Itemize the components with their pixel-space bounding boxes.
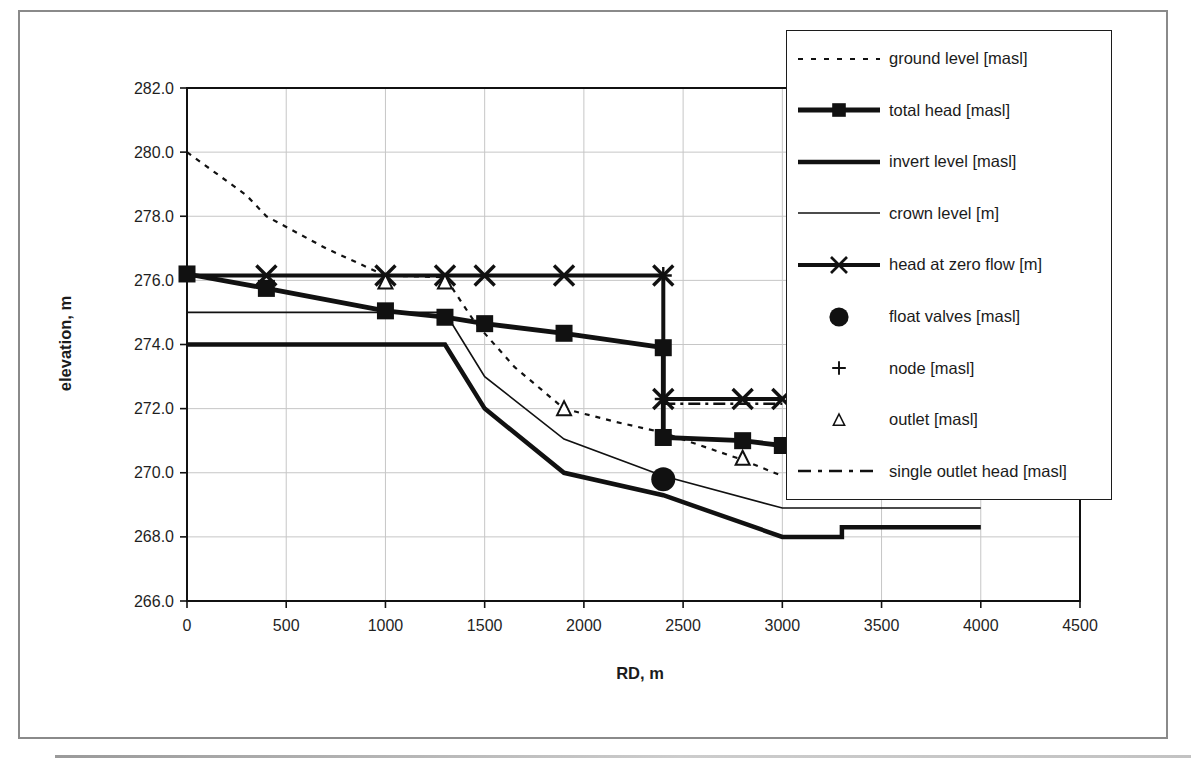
triangle-marker [736, 451, 750, 465]
tick-label-x: 1000 [368, 617, 404, 634]
legend-label: invert level [masl] [889, 152, 1016, 171]
tick-label-x: 4500 [1062, 617, 1098, 634]
legend-label: single outlet head [masl] [889, 462, 1067, 481]
legend-item-outlet: outlet [masl] [795, 406, 1111, 434]
tick-label-y: 282.0 [134, 80, 174, 97]
square-marker [377, 302, 394, 319]
legend-label: head at zero flow [m] [889, 255, 1042, 274]
legend-sample-crown_level [795, 199, 887, 227]
tick-label-x: 3500 [864, 617, 900, 634]
legend-sample-head_at_zero_flow [795, 251, 887, 279]
legend-sample-ground_level [795, 45, 887, 73]
legend-sample-float_valves [795, 303, 887, 331]
triangle-marker [833, 414, 844, 425]
figure-frame: 266.0268.0270.0272.0274.0276.0278.0280.0… [0, 0, 1191, 761]
tick-label-x: 3000 [765, 617, 801, 634]
legend-label: crown level [m] [889, 204, 999, 223]
tick-label-x: 0 [183, 617, 192, 634]
circle-marker [651, 467, 675, 491]
series-float_valves-markers [651, 467, 675, 491]
tick-label-y: 266.0 [134, 593, 174, 610]
tick-label-y: 278.0 [134, 208, 174, 225]
legend-sample-invert_level [795, 148, 887, 176]
legend-label: float valves [masl] [889, 307, 1020, 326]
square-marker [476, 315, 493, 332]
square-marker [655, 339, 672, 356]
legend-item-float_valves: float valves [masl] [795, 303, 1111, 331]
legend-label: total head [masl] [889, 101, 1010, 120]
legend-label: node [masl] [889, 359, 974, 378]
tick-label-y: 272.0 [134, 400, 174, 417]
scan-artifact-line [55, 755, 1191, 758]
tick-label-x: 1500 [467, 617, 503, 634]
square-marker [556, 325, 573, 342]
tick-label-y: 270.0 [134, 464, 174, 481]
legend-item-invert_level: invert level [masl] [795, 148, 1111, 176]
square-marker [258, 280, 275, 297]
series-outlet-markers [378, 274, 749, 464]
legend-sample-node [795, 354, 887, 382]
legend-sample-outlet [795, 406, 887, 434]
square-marker [436, 309, 453, 326]
square-marker [179, 265, 196, 282]
square-marker [734, 432, 751, 449]
square-marker [832, 104, 846, 118]
legend-item-node: node [masl] [795, 354, 1111, 382]
tick-label-y: 276.0 [134, 272, 174, 289]
plus-marker [832, 361, 846, 375]
tick-label-y: 280.0 [134, 144, 174, 161]
legend-item-head_at_zero_flow: head at zero flow [m] [795, 251, 1111, 279]
legend-box: ground level [masl]total head [masl]inve… [786, 30, 1112, 500]
legend-label: outlet [masl] [889, 410, 978, 429]
legend-item-single_outlet_head: single outlet head [masl] [795, 457, 1111, 485]
square-marker [655, 429, 672, 446]
legend-item-total_head: total head [masl] [795, 96, 1111, 124]
circle-marker [829, 307, 848, 326]
legend-item-crown_level: crown level [m] [795, 199, 1111, 227]
legend-sample-total_head [795, 96, 887, 124]
legend-label: ground level [masl] [889, 49, 1028, 68]
tick-label-x: 2500 [665, 617, 701, 634]
tick-label-x: 4000 [963, 617, 999, 634]
y-axis-title: elevation, m [56, 264, 75, 424]
x-axis-title: RD, m [570, 664, 710, 683]
tick-label-x: 2000 [566, 617, 602, 634]
tick-label-x: 500 [273, 617, 300, 634]
legend-sample-single_outlet_head [795, 457, 887, 485]
legend-item-ground_level: ground level [masl] [795, 45, 1111, 73]
tick-label-y: 274.0 [134, 336, 174, 353]
series-head_at_zero_flow-markers [256, 266, 792, 409]
tick-label-y: 268.0 [134, 528, 174, 545]
